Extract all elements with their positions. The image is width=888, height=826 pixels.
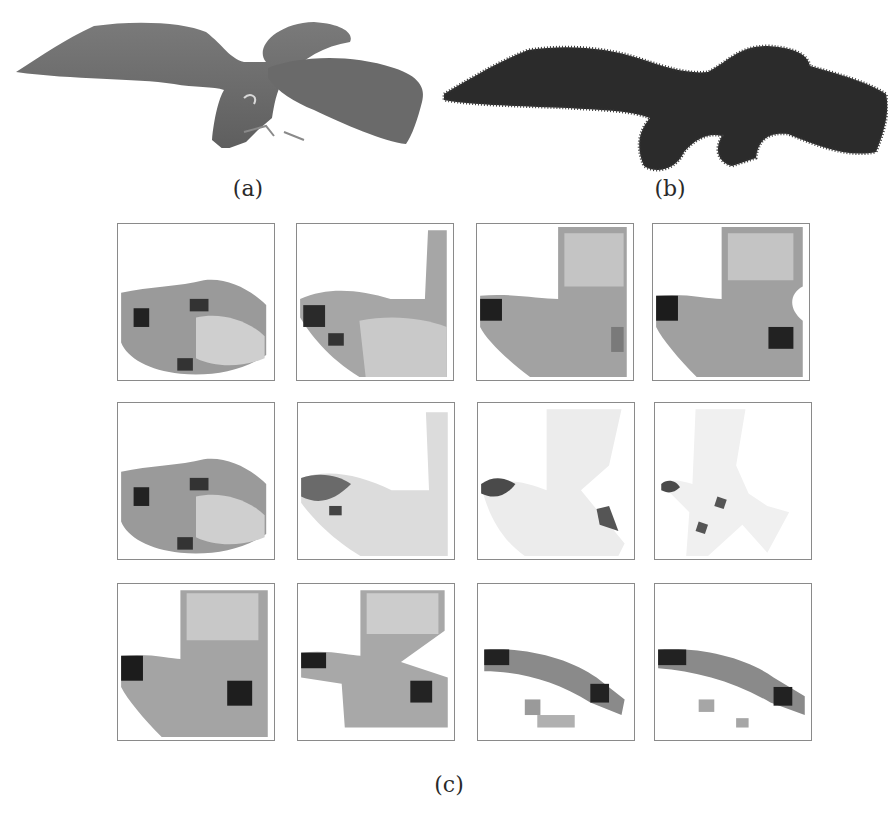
eagle-mesh-image bbox=[14, 18, 434, 148]
grid-panel-r2c4 bbox=[654, 402, 812, 560]
grid-panel-r3c4 bbox=[654, 583, 812, 741]
subfigure-a-caption: (a) bbox=[208, 176, 288, 201]
grid-panel-r2c2 bbox=[297, 402, 455, 560]
eagle-pointcloud-image bbox=[438, 22, 888, 172]
grid-panel-r1c4 bbox=[652, 223, 810, 381]
grid-panel-r1c3 bbox=[476, 223, 634, 381]
subfigure-b-caption: (b) bbox=[630, 176, 710, 201]
grid-panel-r3c1 bbox=[117, 583, 275, 741]
subfigure-c-caption: (c) bbox=[409, 772, 489, 797]
grid-panel-r3c2 bbox=[297, 583, 455, 741]
grid-panel-r1c2 bbox=[296, 223, 454, 381]
grid-panel-r2c3 bbox=[477, 402, 635, 560]
grid-panel-r1c1 bbox=[117, 223, 275, 381]
grid-panel-r2c1 bbox=[117, 402, 275, 560]
grid-panel-r3c3 bbox=[477, 583, 635, 741]
